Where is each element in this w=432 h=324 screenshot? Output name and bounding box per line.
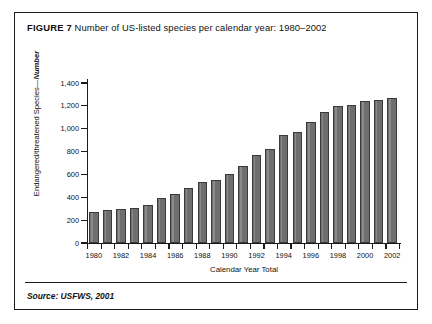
bar (306, 122, 315, 243)
bar (238, 166, 247, 243)
x-axis-tick (141, 244, 142, 249)
x-axis-tick (345, 244, 346, 249)
x-axis-tick (290, 244, 291, 249)
x-axis-tick-label: 2000 (357, 251, 373, 260)
chart-block: Endangered/threatened Species—Number 020… (15, 39, 419, 271)
bar (143, 205, 152, 243)
bar (387, 98, 396, 243)
y-axis-title-plain: Endangered/threatened Species— (32, 80, 41, 197)
bar (252, 155, 261, 243)
bar (130, 208, 139, 243)
bar (198, 182, 207, 243)
x-axis-tick (331, 244, 332, 249)
x-axis-tick-label: 1986 (167, 251, 183, 260)
x-axis-tick (223, 244, 224, 249)
x-axis-tick (372, 244, 373, 249)
y-axis-tick-label: 1,400 (43, 79, 79, 88)
figure-title-text: Number of US-listed species per calendar… (75, 22, 327, 33)
x-axis-tick (87, 244, 88, 249)
x-axis-tick-label: 1992 (248, 251, 264, 260)
x-axis-tick (114, 244, 115, 249)
x-axis-tick (182, 244, 183, 249)
x-axis-tick (250, 244, 251, 249)
x-axis-tick (209, 244, 210, 249)
x-axis-tick (304, 244, 305, 249)
x-axis-title: Calendar Year Total (87, 265, 401, 274)
y-axis-title: Endangered/threatened Species—Number (32, 39, 41, 209)
bar (320, 112, 329, 243)
x-axis-tick (358, 244, 359, 249)
x-axis-tick-label: 1994 (275, 251, 291, 260)
x-axis-tick (196, 244, 197, 249)
x-axis-tick (263, 244, 264, 249)
figure-title: FIGURE 7 Number of US-listed species per… (27, 22, 327, 33)
x-axis-tick-label: 1984 (140, 251, 156, 260)
x-axis-tick-label: 1982 (113, 251, 129, 260)
y-axis-tick-label: 0 (43, 239, 79, 248)
bar (225, 174, 234, 243)
figure-number: FIGURE 7 (27, 22, 72, 33)
x-axis-tick (399, 244, 400, 249)
bar (211, 180, 220, 243)
bar (333, 106, 342, 243)
bar (157, 198, 166, 243)
x-axis-tick-label: 1980 (86, 251, 102, 260)
y-axis-tick-label: 1,200 (43, 101, 79, 110)
y-axis-tick-label: 400 (43, 193, 79, 202)
x-axis-tick (128, 244, 129, 249)
y-axis-tick-label: 600 (43, 170, 79, 179)
figure-frame: FIGURE 7 Number of US-listed species per… (14, 12, 418, 310)
x-axis-tick-label: 1996 (303, 251, 319, 260)
x-axis-tick (236, 244, 237, 249)
x-axis-tick (318, 244, 319, 249)
bar (184, 188, 193, 243)
bar (116, 209, 125, 243)
y-axis-title-bold: Number (32, 51, 41, 80)
x-axis-tick (101, 244, 102, 249)
x-axis-tick (168, 244, 169, 249)
plot-area (87, 83, 399, 243)
bar (347, 105, 356, 243)
y-axis-tick-label: 1,000 (43, 124, 79, 133)
bar (374, 100, 383, 243)
x-axis-tick (277, 244, 278, 249)
y-axis-tick-label: 800 (43, 147, 79, 156)
x-axis-tick (155, 244, 156, 249)
x-axis-tick (385, 244, 386, 249)
x-axis-tick-label: 1988 (194, 251, 210, 260)
bar (170, 194, 179, 243)
source-divider (25, 282, 407, 283)
bar (279, 135, 288, 243)
bar (293, 132, 302, 243)
bar (360, 101, 369, 243)
x-axis-tick-label: 1990 (221, 251, 237, 260)
x-axis-tick-label: 1998 (330, 251, 346, 260)
source-note: Source: USFWS, 2001 (27, 291, 114, 301)
bar (103, 210, 112, 243)
y-axis-tick-label: 200 (43, 216, 79, 225)
bar (89, 212, 98, 243)
x-axis-tick-label: 2002 (384, 251, 400, 260)
bar (265, 149, 274, 243)
x-axis-line (87, 243, 401, 244)
